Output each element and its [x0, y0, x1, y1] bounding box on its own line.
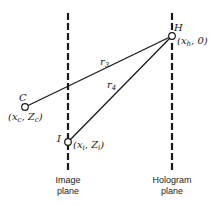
coords-c: (xc, Zc)	[8, 111, 43, 124]
label-h: H	[173, 22, 183, 33]
point-h	[169, 33, 176, 40]
image-plane-label-1: Image	[55, 175, 80, 185]
hologram-geometry-diagram: H (xh, 0) C (xc, Zc) I (xi, Zi) r3 r4 Im…	[0, 0, 215, 205]
point-i	[65, 139, 72, 146]
label-c: C	[19, 92, 27, 103]
label-r4: r4	[107, 79, 116, 92]
label-r3: r3	[100, 56, 110, 69]
ray-r4	[68, 36, 172, 142]
hologram-plane-label-2: plane	[161, 186, 183, 196]
hologram-plane-label-1: Hologram	[152, 175, 191, 185]
label-i: I	[56, 133, 62, 144]
coords-h: (xh, 0)	[177, 35, 208, 48]
coords-i: (xi, Zi)	[73, 139, 104, 152]
point-c	[22, 104, 29, 111]
image-plane-label-2: plane	[57, 186, 79, 196]
ray-r3	[25, 36, 172, 107]
diagram-svg: H (xh, 0) C (xc, Zc) I (xi, Zi) r3 r4 Im…	[0, 0, 215, 205]
